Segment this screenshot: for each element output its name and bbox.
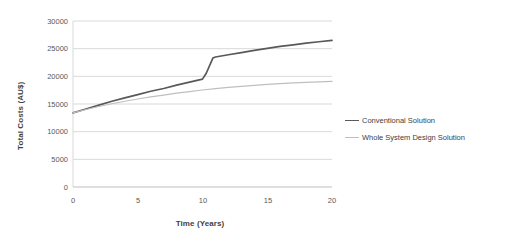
legend-label-whole-system-design: Whole System Design Solution xyxy=(362,133,465,142)
legend-swatch-whole-system-design xyxy=(345,137,359,138)
legend-item-whole-system-design: Whole System Design Solution xyxy=(345,129,465,146)
chart-legend: Conventional Solution Whole System Desig… xyxy=(345,112,465,146)
legend-label-conventional: Conventional Solution xyxy=(362,116,435,125)
legend-swatch-conventional xyxy=(345,120,359,121)
legend-item-conventional: Conventional Solution xyxy=(345,112,465,129)
series-line-whole-system-design-solution xyxy=(73,81,332,112)
line-chart: Total Costs (AU$) 30000 25000 20000 1500… xyxy=(0,0,509,247)
